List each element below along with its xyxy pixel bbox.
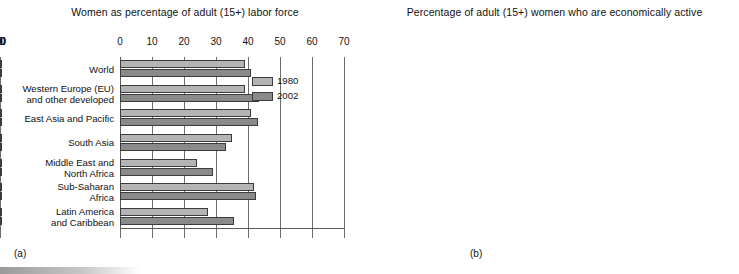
bar-1980 (0, 60, 2, 68)
bar-1980 (0, 109, 2, 117)
bar-2002 (0, 168, 2, 176)
panel-a: Women as percentage of adult (15+) labor… (0, 0, 370, 274)
x-tick-label-80: 80 (0, 36, 6, 47)
category-label: World (0, 64, 114, 75)
x-tick-30 (216, 229, 217, 238)
bar-1980 (0, 183, 2, 191)
bar-group: Sub-Saharan Africa (120, 180, 344, 205)
chart-a-title: Women as percentage of adult (15+) labor… (0, 6, 370, 19)
bar-2002 (0, 143, 2, 151)
bar-2002 (120, 217, 234, 225)
bar-group: World (120, 57, 344, 82)
legend-item-1980: 1980 (252, 75, 298, 87)
bar-1980 (120, 85, 245, 93)
category-label: Middle East and North Africa (0, 157, 114, 179)
bar-group: Western Europe (EU) and other developed (120, 82, 344, 107)
bar-2002 (0, 94, 2, 102)
bar-1980 (120, 109, 251, 117)
category-label: South Asia (0, 137, 114, 148)
x-tick-label-70: 70 (338, 36, 349, 47)
legend-swatch-1980-icon (252, 77, 273, 86)
x-tick-label-30: 30 (210, 36, 221, 47)
legend-label-2002: 2002 (277, 90, 298, 102)
category-label: Latin America and Caribbean (0, 206, 114, 228)
bar-1980 (0, 134, 2, 142)
legend-item-2002: 2002 (252, 90, 298, 102)
bar-1980 (0, 208, 2, 216)
x-tick-60 (312, 229, 313, 238)
gridline-70 (344, 57, 345, 229)
x-tick-label-60: 60 (306, 36, 317, 47)
x-tick-50 (280, 229, 281, 238)
bar-1980 (0, 159, 2, 167)
panel-b-caption: (b) (470, 248, 482, 259)
x-tick-label-0: 0 (117, 36, 123, 47)
bar-1980 (120, 208, 208, 216)
bar-1980 (120, 159, 197, 167)
bar-group: East Asia and Pacific (120, 106, 344, 131)
page-footer-rule (0, 267, 140, 274)
bar-2002 (0, 118, 2, 126)
bar-2002 (0, 192, 2, 200)
two-panel-bar-chart-figure: Women as percentage of adult (15+) labor… (0, 0, 739, 274)
category-label: East Asia and Pacific (0, 113, 114, 124)
panel-a-caption: (a) (14, 248, 26, 259)
bar-group: Middle East and North Africa (120, 155, 344, 180)
x-tick-10 (152, 229, 153, 238)
x-tick-0 (120, 229, 121, 238)
bar-1980 (120, 134, 232, 142)
legend-label-1980: 1980 (277, 75, 298, 87)
bar-2002 (0, 217, 2, 225)
bar-1980 (120, 183, 254, 191)
bar-2002 (120, 94, 259, 102)
category-label: Western Europe (EU) and other developed (0, 83, 114, 105)
x-tick-label-40: 40 (242, 36, 253, 47)
x-tick-label-50: 50 (274, 36, 285, 47)
bar-1980 (0, 85, 2, 93)
bar-2002 (120, 69, 251, 77)
x-tick-label-10: 10 (146, 36, 157, 47)
bar-group: South Asia (120, 131, 344, 156)
x-tick-20 (184, 229, 185, 238)
bar-2002 (0, 69, 2, 77)
chart-b-title: Percentage of adult (15+) women who are … (370, 6, 739, 19)
legend-swatch-2002-icon (252, 92, 273, 101)
x-tick-80 (0, 229, 1, 238)
chart-a-plot-area: 010203040506070WorldWestern Europe (EU) … (120, 57, 344, 229)
chart-legend: 1980 2002 (252, 75, 298, 105)
bar-group: Latin America and Caribbean (120, 204, 344, 229)
x-tick-label-20: 20 (178, 36, 189, 47)
bar-2002 (120, 168, 213, 176)
x-tick-40 (248, 229, 249, 238)
x-tick-70 (344, 229, 345, 238)
bar-1980 (120, 60, 245, 68)
category-label: Sub-Saharan Africa (0, 181, 114, 203)
bar-2002 (120, 143, 226, 151)
bar-2002 (120, 118, 258, 126)
bar-2002 (120, 192, 256, 200)
panel-b: Percentage of adult (15+) women who are … (370, 0, 739, 274)
